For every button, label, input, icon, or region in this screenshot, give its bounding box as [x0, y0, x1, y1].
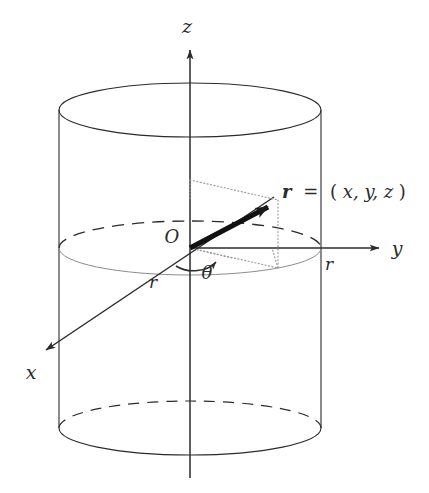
dotted-projection-to-y-axis [272, 248, 278, 268]
z-axis-label: z [181, 15, 193, 37]
radius-label-y-side: r [325, 254, 334, 274]
position-vector-shaft [190, 207, 268, 248]
radius-label-x-side: r [149, 272, 158, 292]
vector-components: x, y, z [343, 181, 394, 202]
position-vector-arrow [190, 207, 268, 248]
vector-open-paren: ( [330, 181, 337, 202]
theta-label: θ [202, 262, 213, 283]
vector-equals-sign: = [303, 181, 318, 202]
vector-label-group: r = ( x, y, z ) [282, 181, 406, 202]
vector-close-paren: ) [399, 181, 406, 202]
x-axis-label: x [26, 361, 37, 383]
figure-text-labels: z y x O θ r r r = ( x, y, z ) [26, 15, 406, 383]
origin-label: O [165, 226, 180, 247]
cylinder-diagram-canvas: z y x O θ r r r = ( x, y, z ) [0, 0, 429, 493]
y-axis-label: y [391, 237, 403, 259]
dotted-theta-guide [190, 248, 232, 258]
dotted-top-edge-to-vector-tip [190, 180, 278, 200]
vector-symbol-bold: r [282, 181, 293, 202]
cylindrical-coordinates-figure: z y x O θ r r r = ( x, y, z ) [0, 0, 429, 493]
vector-label-text: r = ( x, y, z ) [282, 181, 406, 202]
